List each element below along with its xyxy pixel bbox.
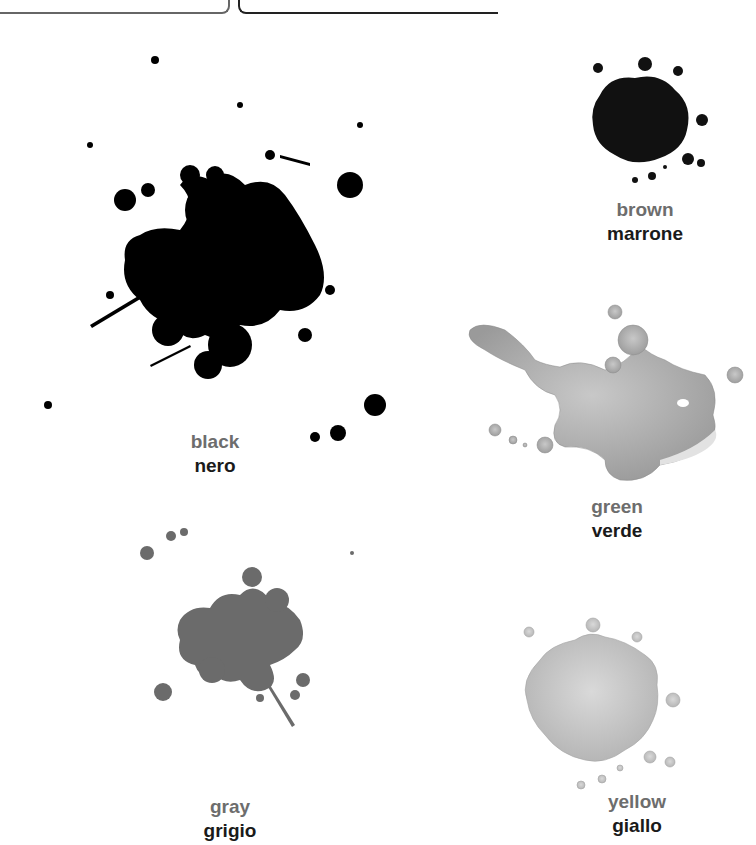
italian-word: giallo [582,814,692,838]
label-gray: gray grigio [175,795,285,843]
top-bracket-right [238,0,498,14]
black-splatter-illustration [30,45,410,445]
yellow-splatter-illustration [505,605,705,790]
english-word: yellow [582,790,692,814]
green-splatter-illustration [465,295,750,490]
top-bracket-left [0,0,230,14]
italian-word: verde [562,519,672,543]
english-word: black [160,430,270,454]
label-green: green verde [562,495,672,543]
italian-word: nero [160,454,270,478]
italian-word: grigio [175,819,285,843]
label-yellow: yellow giallo [582,790,692,838]
english-word: gray [175,795,285,819]
brown-splatter-illustration [565,50,715,185]
italian-word: marrone [590,222,700,246]
english-word: brown [590,198,700,222]
gray-splatter-illustration [120,520,360,760]
label-black: black nero [160,430,270,478]
english-word: green [562,495,672,519]
label-brown: brown marrone [590,198,700,246]
